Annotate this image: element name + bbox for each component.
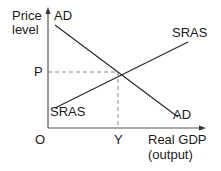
ad-label-top: AD <box>54 9 72 23</box>
output-label: Y <box>114 133 123 147</box>
x-axis-label-real-gdp: Real GDP <box>148 133 207 147</box>
y-axis-label-price: Price <box>12 9 42 23</box>
origin-label: O <box>35 133 45 147</box>
ad-label-bottom: AD <box>173 108 191 122</box>
x-axis-arrow-icon <box>199 126 206 131</box>
x-axis-label-output: (output) <box>148 148 193 162</box>
y-axis-label-level: level <box>12 23 39 37</box>
y-axis-arrow-icon <box>46 7 51 14</box>
sras-label-top: SRAS <box>172 26 207 40</box>
sras-curve <box>55 42 188 108</box>
price-level-label: P <box>34 65 43 79</box>
sras-label-bottom: SRAS <box>50 105 85 119</box>
